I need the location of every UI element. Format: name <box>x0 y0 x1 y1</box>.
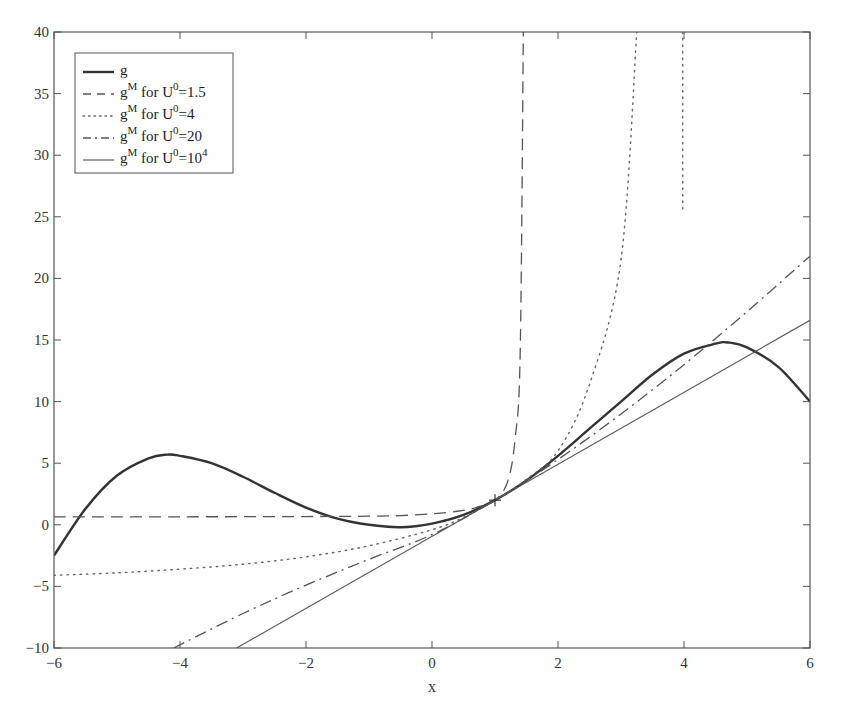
y-tick-label: 10 <box>34 394 49 410</box>
series-line <box>54 342 810 556</box>
x-tick-label: −6 <box>46 655 62 671</box>
y-tick-label: 5 <box>42 455 50 471</box>
y-tick-label: 40 <box>34 24 49 40</box>
series-line <box>174 256 810 648</box>
line-chart: −6−4−20246−10−50510152025303540 x ggM fo… <box>0 0 847 715</box>
intersection-marker <box>489 494 501 506</box>
y-tick-label: 0 <box>42 517 50 533</box>
series-line <box>237 320 810 648</box>
x-tick-label: 4 <box>680 655 688 671</box>
series-0 <box>54 342 810 556</box>
legend: ggM for U0=1.5gM for U0=4gM for U0=20gM … <box>75 53 233 173</box>
y-tick-label: 15 <box>34 332 49 348</box>
y-tick-label: 25 <box>34 209 49 225</box>
x-tick-label: −2 <box>298 655 314 671</box>
x-tick-label: −4 <box>172 655 188 671</box>
x-axis-label: x <box>428 678 436 695</box>
x-tick-label: 0 <box>428 655 436 671</box>
x-tick-label: 6 <box>806 655 814 671</box>
y-tick-label: −5 <box>33 578 49 594</box>
x-tick-label: 2 <box>554 655 562 671</box>
y-tick-label: −10 <box>26 640 49 656</box>
y-tick-label: 35 <box>34 86 49 102</box>
legend-entry-label: g <box>120 62 128 78</box>
y-tick-label: 20 <box>34 270 49 286</box>
series-3 <box>174 256 810 648</box>
series-4 <box>237 320 810 648</box>
y-tick-label: 30 <box>34 147 49 163</box>
